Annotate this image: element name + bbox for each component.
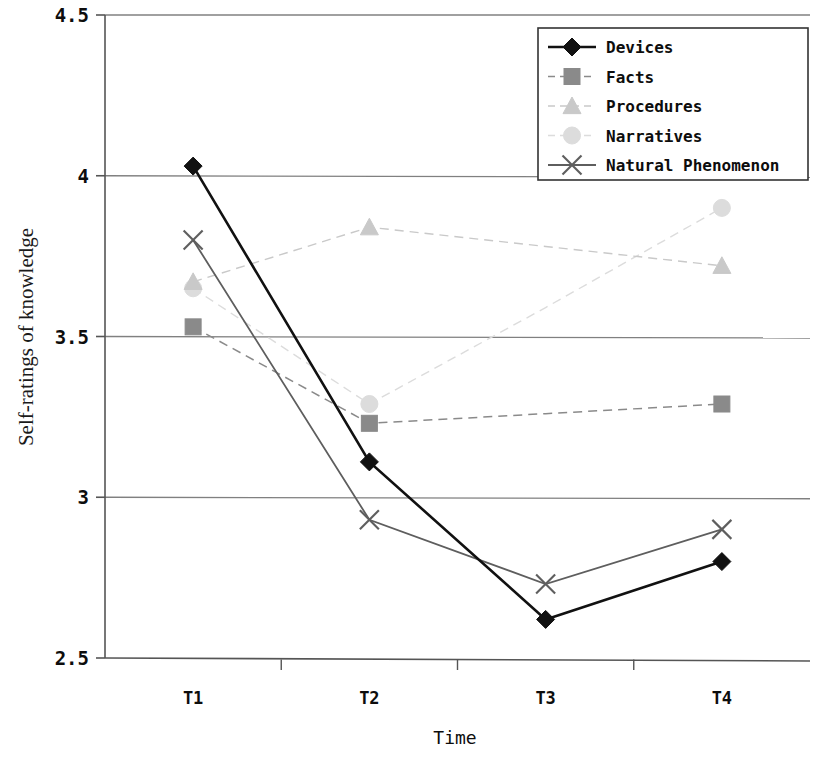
legend-marker-square <box>564 69 580 85</box>
data-point-square <box>714 396 730 412</box>
legend-label: Narratives <box>606 127 702 146</box>
legend-label: Devices <box>606 38 673 57</box>
legend-label: Facts <box>606 68 654 87</box>
x-category-label: T3 <box>535 688 555 708</box>
y-tick-label: 4 <box>78 165 89 187</box>
legend: DevicesFactsProceduresNarrativesNatural … <box>538 28 808 180</box>
legend-item: Narratives <box>548 127 702 146</box>
data-point-square <box>361 415 377 431</box>
y-axis-title: Self-ratings of knowledge <box>14 228 38 446</box>
y-tick-label: 3.5 <box>55 326 89 348</box>
data-point-square <box>185 319 201 335</box>
x-category-label: T1 <box>183 688 203 708</box>
x-category-label: T4 <box>712 688 732 708</box>
y-tick-label: 3 <box>78 486 89 508</box>
legend-item: Procedures <box>548 97 702 116</box>
legend-marker-circle <box>564 127 581 144</box>
line-chart: 2.533.544.5 T1T2T3T4 Self-ratings of kno… <box>0 0 815 757</box>
data-point-circle <box>713 199 730 216</box>
x-category-label: T2 <box>359 688 379 708</box>
y-tick-label: 2.5 <box>55 647 89 669</box>
legend-label: Procedures <box>606 97 702 116</box>
data-point-circle <box>361 396 378 413</box>
y-tick-label: 4.5 <box>55 4 89 26</box>
legend-label: Natural Phenomenon <box>606 156 779 175</box>
x-axis-title: Time <box>433 727 476 748</box>
